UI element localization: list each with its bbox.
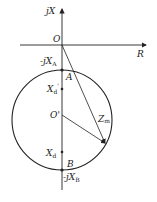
point-b-label: B (66, 159, 74, 169)
xd-label: Xd (45, 148, 56, 159)
point-xd-prime-dot (61, 88, 64, 91)
point-b-value-label: -jXB (63, 172, 80, 183)
point-a-dot (60, 68, 63, 71)
point-a-label: A (65, 72, 73, 82)
vertical-axis-label: jX (44, 6, 56, 16)
impedance-circle-diagram: jX R O -jXA A Xd' O' Zm Xd B -jXB (0, 0, 157, 202)
horizontal-axis-label: R (136, 49, 144, 59)
point-xd-dot (61, 151, 64, 154)
zm-label: Zm (97, 114, 110, 124)
center-label: O' (50, 110, 60, 120)
zm-vector (62, 45, 105, 143)
origin-label: O (53, 34, 61, 44)
point-a-value-label: -jXA (40, 56, 57, 67)
xd-prime-label: Xd' (46, 82, 59, 95)
